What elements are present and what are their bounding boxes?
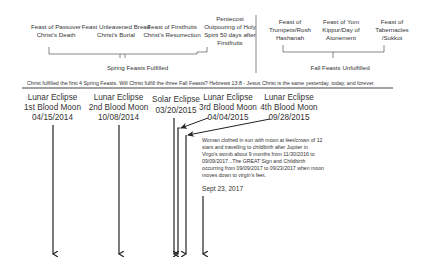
pointer-4th-blood-moon — [188, 119, 270, 135]
fall-bracket — [283, 45, 384, 58]
arrow-3rd-blood-moon — [178, 128, 180, 254]
spring-bracket — [49, 47, 207, 58]
pointer-3rd-blood-moon — [181, 118, 208, 128]
diagram-lines — [0, 0, 421, 269]
